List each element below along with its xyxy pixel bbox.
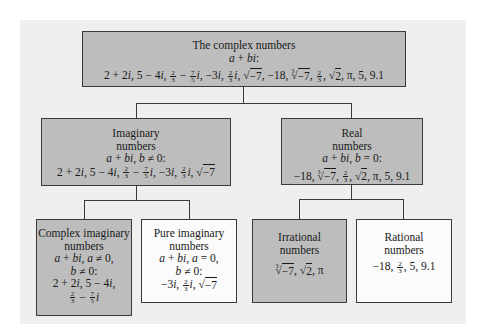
fraction: 75: [143, 166, 149, 179]
node-title: numbers: [116, 140, 156, 153]
node-title: Complex imaginary: [38, 227, 130, 240]
connector-line: [243, 86, 244, 104]
node-title: numbers: [384, 244, 424, 257]
node-title: numbers: [64, 240, 104, 253]
node-imaginary-numbers: Imaginary numbers a + bi, b ≠ 0: 2 + 2i,…: [41, 118, 231, 186]
node-title: numbers: [169, 240, 209, 253]
node-condition: a + bi:: [229, 52, 259, 65]
connector-line: [351, 184, 352, 200]
cube-root: 3√−7: [276, 260, 295, 277]
fraction: 75: [190, 70, 196, 83]
node-examples: −18, 23, 5, 9.1: [373, 260, 436, 274]
fraction: 23: [343, 170, 349, 183]
node-condition: b ≠ 0:: [176, 265, 203, 278]
square-root: √2: [355, 170, 367, 183]
node-title: numbers: [280, 244, 320, 257]
node-title: Irrational: [278, 231, 321, 244]
node-condition: a + bi, a = 0,: [159, 252, 218, 265]
fraction: 23: [181, 166, 187, 179]
node-title: The complex numbers: [193, 39, 296, 52]
fraction: 23: [397, 261, 403, 274]
fraction: 23: [317, 70, 323, 83]
square-root: √2: [329, 69, 341, 82]
node-title: Pure imaginary: [154, 227, 225, 240]
node-examples: 23 − 75i: [69, 291, 99, 305]
square-root: √−7: [243, 69, 262, 82]
cube-root: 3√−7: [291, 65, 310, 82]
node-title: Rational: [385, 231, 424, 244]
cube-root: 3√−7: [317, 166, 336, 183]
connector-line: [351, 103, 352, 118]
node-examples: −3i, 23i, √−7: [161, 278, 217, 292]
node-real-numbers: Real numbers a + bi, b = 0: −18, 3√−7, 2…: [281, 118, 423, 185]
node-title: Imaginary: [112, 127, 159, 140]
node-complex-numbers: The complex numbers a + bi: 2 + 2i, 5 − …: [82, 31, 406, 87]
square-root: √−7: [196, 166, 215, 179]
node-rational-numbers: Rational numbers −18, 23, 5, 9.1: [356, 219, 452, 303]
node-condition: a + bi, b = 0:: [322, 152, 382, 165]
square-root: √−7: [199, 278, 218, 291]
connector-line: [84, 200, 85, 219]
connector-line: [84, 200, 190, 201]
connector-line: [136, 103, 137, 118]
square-root: √2: [300, 264, 312, 277]
node-examples: 3√−7, √2, π: [276, 260, 324, 277]
node-title: numbers: [332, 140, 372, 153]
connector-line: [299, 199, 404, 200]
connector-line: [136, 103, 352, 104]
node-pure-imaginary-numbers: Pure imaginary numbers a + bi, a = 0, b …: [141, 219, 237, 303]
connector-line: [403, 199, 404, 219]
connector-line: [189, 200, 190, 219]
node-examples: 2 + 2i, 5 − 4i, 23 − 75i, −3i, 23i, √−7,…: [104, 65, 384, 83]
node-title: Real: [341, 127, 362, 140]
fraction: 23: [228, 70, 234, 83]
fraction: 75: [90, 291, 96, 304]
node-complex-imaginary-numbers: Complex imaginary numbers a + bi, a ≠ 0,…: [36, 219, 132, 316]
node-examples: 2 + 2i, 5 − 4i, 23 − 75i, −3i, 23i, √−7: [57, 166, 215, 180]
node-examples: 2 + 2i, 5 − 4i,: [53, 277, 116, 290]
fraction: 23: [123, 166, 129, 179]
fraction: 23: [70, 291, 76, 304]
fraction: 23: [183, 279, 189, 292]
node-irrational-numbers: Irrational numbers 3√−7, √2, π: [252, 219, 347, 303]
fraction: 23: [170, 70, 176, 83]
connector-line: [299, 199, 300, 219]
node-condition: a + bi, b ≠ 0:: [106, 152, 165, 165]
connector-line: [136, 185, 137, 201]
node-condition: a + bi, a ≠ 0,: [54, 252, 113, 265]
node-condition: b ≠ 0:: [71, 265, 98, 278]
node-examples: −18, 3√−7, 23, √2, π, 5, 9.1: [294, 166, 411, 184]
